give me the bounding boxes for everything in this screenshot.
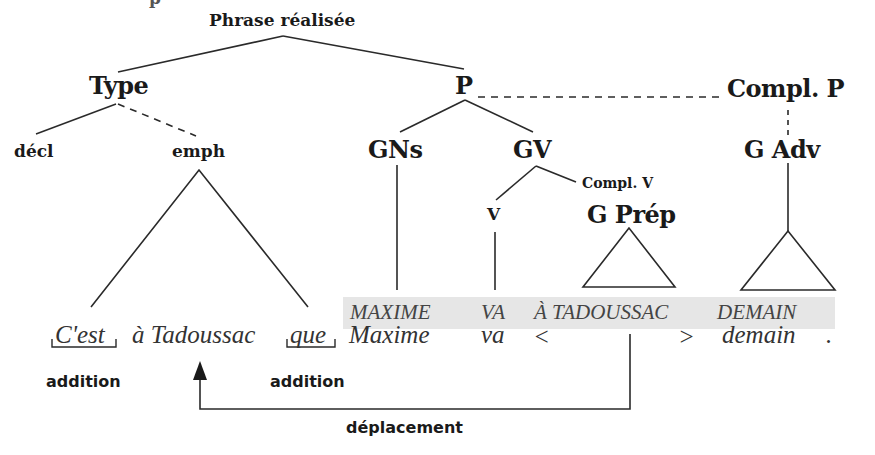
operation-addition-1: addition — [46, 374, 121, 390]
edge-root-type — [118, 36, 283, 72]
syntax-tree-diagram: p Phrase réalisée Type P Compl. P décl e… — [0, 0, 875, 455]
operation-addition-2: addition — [270, 374, 345, 390]
surface-va: va — [481, 322, 505, 347]
edge-gv-v — [496, 166, 536, 200]
node-compl-v: Compl. V — [582, 176, 653, 190]
arrow-head-icon — [193, 361, 207, 380]
node-compl-p: Compl. P — [727, 77, 844, 101]
deep-word-a-tadoussac: À TADOUSSAC — [534, 302, 668, 323]
node-v: V — [487, 206, 500, 223]
gprep-triangle — [583, 228, 675, 287]
node-gns: GNs — [368, 138, 422, 162]
gadv-triangle — [741, 231, 835, 290]
node-phrase-realisee: Phrase réalisée — [209, 12, 355, 29]
edge-gv-complv — [536, 166, 576, 182]
node-gv: GV — [513, 138, 551, 162]
edge-p-gns — [400, 100, 465, 132]
edge-p-gv — [465, 100, 533, 132]
surface-lt: < — [533, 324, 550, 349]
node-g-prep: G Prép — [587, 203, 676, 227]
surface-gt: > — [678, 324, 695, 349]
deep-word-demain: DEMAIN — [717, 302, 796, 323]
surface-que: que — [290, 322, 326, 347]
surface-a-tadoussac: à Tadoussac — [132, 322, 255, 347]
node-type: Type — [89, 74, 148, 98]
surface-maxime: Maxime — [349, 322, 430, 347]
deep-word-va: VA — [481, 302, 505, 323]
node-decl: décl — [14, 143, 54, 160]
node-g-adv: G Adv — [744, 138, 820, 162]
surface-period: . — [826, 322, 832, 347]
operation-deplacement: déplacement — [346, 420, 463, 436]
tree-edges — [0, 0, 875, 455]
node-emph: emph — [172, 143, 225, 160]
surface-demain: demain — [722, 322, 796, 347]
edge-type-decl — [36, 104, 116, 134]
emph-triangle — [91, 170, 308, 307]
surface-cest: C'est — [55, 322, 105, 347]
deep-word-maxime: MAXIME — [350, 302, 430, 323]
node-p: P — [455, 74, 473, 98]
title-fragment: p — [149, 0, 161, 7]
edge-type-emph — [118, 104, 196, 136]
edge-root-p — [283, 36, 464, 69]
